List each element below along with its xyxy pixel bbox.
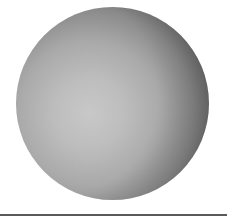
horizontal-baseline xyxy=(0,214,227,216)
shaded-sphere xyxy=(16,7,209,200)
